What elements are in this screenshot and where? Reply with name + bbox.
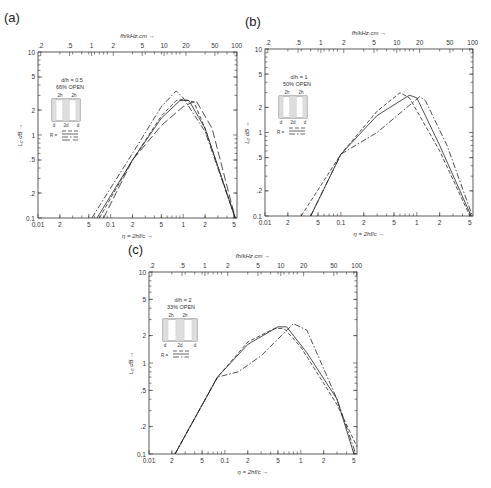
svg-text:d: d <box>304 120 307 125</box>
y-tick-label: 1 <box>31 132 35 139</box>
x-tick-label: 5 <box>468 219 472 226</box>
r-label: R = <box>277 130 285 135</box>
svg-text:2h: 2h <box>298 90 304 95</box>
data-curve <box>175 324 356 454</box>
ratio-label: d/h = 0.5 <box>61 77 83 83</box>
x-tick-label: 5 <box>87 221 91 228</box>
y-tick-label: 1 <box>258 129 262 136</box>
svg-text:d: d <box>164 343 167 348</box>
svg-text:2h: 2h <box>57 93 63 98</box>
top-tick-label: 5 <box>372 39 376 46</box>
top-tick-label: 10 <box>160 42 168 49</box>
top-tick-label: 50 <box>211 42 219 49</box>
bottom-axis-title: η = 2hf/c → <box>354 231 385 237</box>
y-tick-label: .2 <box>257 187 263 194</box>
x-tick-label: 5 <box>276 457 280 464</box>
y-axis-title: L₀ dB → <box>244 121 250 144</box>
open-label: 50% OPEN <box>283 81 311 87</box>
top-tick-label: 20 <box>416 39 424 46</box>
top-axis-title: fh/kHz.cm → <box>120 33 154 39</box>
svg-text:d: d <box>53 123 56 128</box>
panel-b: (b)0.01250.125125.2.512510205010010521.5… <box>244 14 478 237</box>
y-tick-label: 5 <box>31 73 35 80</box>
top-tick-label: 2 <box>342 39 346 46</box>
top-tick-label: .5 <box>179 262 185 269</box>
svg-text:d: d <box>77 123 80 128</box>
data-curve <box>301 93 470 216</box>
x-tick-label: 5 <box>316 219 320 226</box>
y-tick-label: 5 <box>258 71 262 78</box>
y-axis-title: L₀ dB → <box>17 124 23 147</box>
top-tick-label: .2 <box>265 39 271 46</box>
top-tick-label: 10 <box>393 39 401 46</box>
ratio-label: d/h = 1 <box>291 74 308 80</box>
y-tick-label: .5 <box>141 387 147 394</box>
y-tick-label: 0.1 <box>137 451 146 458</box>
bottom-axis-title: η = 2hf/c → <box>238 469 269 475</box>
top-tick-label: 20 <box>300 262 308 269</box>
data-curve <box>175 328 357 454</box>
top-tick-label: 50 <box>446 39 454 46</box>
y-tick-label: 10 <box>28 49 36 56</box>
top-tick-label: .2 <box>38 42 44 49</box>
top-axis-title: fh/kHz.cm → <box>236 253 270 259</box>
y-tick-label: 10 <box>255 46 263 53</box>
top-tick-label: 10 <box>277 262 285 269</box>
svg-text:d: d <box>194 343 197 348</box>
x-tick-label: 1 <box>415 219 419 226</box>
panel-label: (c) <box>128 242 143 257</box>
panel-label: (a) <box>4 10 20 25</box>
r-label: R = <box>50 133 58 138</box>
x-tick-label: 2 <box>322 457 326 464</box>
y-tick-label: .5 <box>257 154 263 161</box>
x-tick-label: 2 <box>131 221 135 228</box>
x-tick-label: 5 <box>392 219 396 226</box>
x-tick-label: 1 <box>181 221 185 228</box>
x-tick-label: 0.1 <box>336 219 345 226</box>
svg-text:2h: 2h <box>284 90 290 95</box>
x-tick-label: 2 <box>286 219 290 226</box>
svg-text:d: d <box>280 120 283 125</box>
x-tick-label: 5 <box>200 457 204 464</box>
top-tick-label: .5 <box>67 42 73 49</box>
data-curve <box>311 95 472 216</box>
r-label: R = <box>161 353 169 358</box>
svg-text:2h: 2h <box>71 93 77 98</box>
top-tick-label: 100 <box>467 39 478 46</box>
top-axis-title: fh/kHz.cm → <box>352 30 386 36</box>
x-tick-label: 0.01 <box>32 221 45 228</box>
top-tick-label: 1 <box>90 42 94 49</box>
panel-a: (a)0.01250.125125.2.512510205010010521.5… <box>4 10 243 239</box>
x-tick-label: 1 <box>299 457 303 464</box>
y-tick-label: 2 <box>142 332 146 339</box>
x-tick-label: 2 <box>58 221 62 228</box>
top-tick-label: 50 <box>330 262 338 269</box>
data-curve <box>175 327 354 454</box>
svg-text:2d: 2d <box>177 343 183 348</box>
top-tick-label: 5 <box>256 262 260 269</box>
x-tick-label: 0.1 <box>106 221 115 228</box>
x-tick-label: 2 <box>362 219 366 226</box>
figure-canvas: (a)0.01250.125125.2.512510205010010521.5… <box>0 0 491 488</box>
x-tick-label: 0.01 <box>259 219 272 226</box>
x-tick-label: 5 <box>160 221 164 228</box>
y-tick-label: 1 <box>142 360 146 367</box>
y-tick-label: 2 <box>31 107 35 114</box>
y-axis-title: L₀ dB → <box>128 352 134 375</box>
panel-label: (b) <box>245 14 261 29</box>
data-curve <box>311 97 473 217</box>
y-tick-label: .2 <box>141 423 147 430</box>
y-tick-label: 10 <box>139 269 147 276</box>
top-tick-label: .2 <box>149 262 155 269</box>
x-tick-label: 2 <box>246 457 250 464</box>
x-tick-label: 0.1 <box>220 457 229 464</box>
svg-text:2d: 2d <box>63 123 69 128</box>
x-tick-label: 2 <box>170 457 174 464</box>
top-tick-label: 2 <box>112 42 116 49</box>
open-label: 33% OPEN <box>167 304 195 310</box>
panel-c: (c)0.01250.125125.2.512510205010010521.5… <box>128 242 362 475</box>
x-tick-label: 5 <box>352 457 356 464</box>
x-tick-label: 0.01 <box>143 457 156 464</box>
top-tick-label: 5 <box>140 42 144 49</box>
svg-text:2h: 2h <box>182 313 188 318</box>
